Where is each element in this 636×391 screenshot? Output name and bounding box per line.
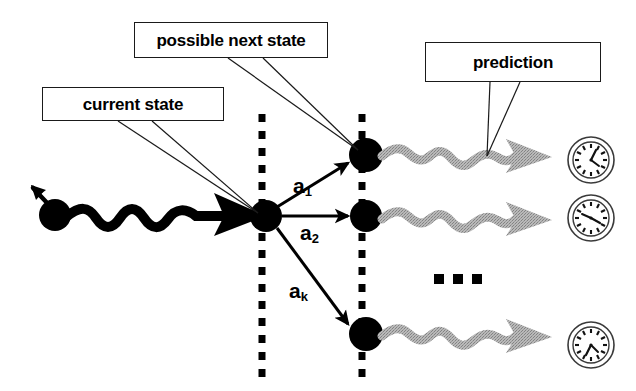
ellipsis-more-branches [434,274,482,284]
action-label-a2-subscript: 2 [312,231,319,246]
ellipsis-dot [453,274,463,284]
clock-icon-1 [568,137,614,183]
callout-possible-next-state: possible next state [134,22,328,58]
action-label-a2: a2 [300,222,319,243]
callout-prediction: prediction [425,42,601,82]
action-label-ak-base: a [289,279,301,302]
ellipsis-dot [472,274,482,284]
action-label-ak: ak [289,280,308,301]
clock-icon-3 [568,322,614,368]
ellipsis-dot [434,274,444,284]
action-label-a1-subscript: 1 [305,184,312,199]
action-label-ak-subscript: k [301,289,308,304]
callout-current-state-label: current state [83,96,183,113]
action-label-a1-base: a [293,174,305,197]
callout-prediction-label: prediction [473,54,553,71]
callout-possible-next-state-label: possible next state [156,32,305,49]
action-label-a1: a1 [293,175,312,196]
clock-icon-2 [568,195,614,241]
callout-current-state: current state [42,87,224,121]
action-label-a2-base: a [300,221,312,244]
diagram-canvas: current state possible next state predic… [0,0,636,391]
